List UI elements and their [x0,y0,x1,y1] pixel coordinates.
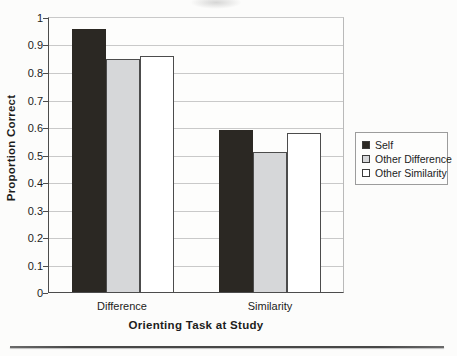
y-tick-label-0.2: 0.2 [0,232,43,244]
bar-other-difference-difference [106,59,140,292]
y-tick-label-1: 1 [0,12,43,24]
x-axis-title: Orienting Task at Study [48,319,344,331]
plot-area [48,17,344,293]
y-tick-0 [43,293,48,294]
legend-label-other-difference: Other Difference [375,153,452,165]
y-tick-label-0.5: 0.5 [0,150,43,162]
y-tick-0.1 [43,266,48,267]
y-tick-1 [43,18,48,19]
legend-item-other-similarity: Other Similarity [362,166,442,180]
y-tick-label-0.6: 0.6 [0,122,43,134]
y-tick-0.5 [43,156,48,157]
bar-self-difference [72,29,106,292]
legend-swatch-self [362,141,370,149]
y-tick-label-0.9: 0.9 [0,39,43,51]
y-tick-0.8 [43,73,48,74]
legend-label-other-similarity: Other Similarity [375,167,447,179]
y-tick-label-0.4: 0.4 [0,177,43,189]
horizontal-rule [10,346,444,348]
bar-self-similarity [219,130,253,292]
y-tick-label-0: 0 [0,287,43,299]
bar-other-similarity-difference [140,56,174,292]
y-tick-label-0.7: 0.7 [0,95,43,107]
y-tick-0.4 [43,183,48,184]
legend-swatch-other-similarity [362,169,370,177]
legend-label-self: Self [375,139,393,151]
y-tick-label-0.1: 0.1 [0,260,43,272]
y-tick-label-0.8: 0.8 [0,67,43,79]
bar-other-similarity-similarity [287,133,321,292]
y-tick-label-0.3: 0.3 [0,205,43,217]
scanned-figure-page: Proportion Correct 10.90.80.70.60.50.40.… [0,0,457,356]
scan-smudge-artifact [190,0,242,9]
legend-item-other-difference: Other Difference [362,152,442,166]
category-label-similarity: Similarity [196,300,344,314]
category-label-difference: Difference [48,300,196,314]
y-tick-0.3 [43,211,48,212]
y-tick-0.2 [43,238,48,239]
y-tick-0.6 [43,128,48,129]
legend-swatch-other-difference [362,155,370,163]
bar-other-difference-similarity [253,152,287,292]
legend: SelfOther DifferenceOther Similarity [355,132,448,185]
legend-item-self: Self [362,138,442,152]
y-tick-0.7 [43,101,48,102]
y-tick-0.9 [43,45,48,46]
